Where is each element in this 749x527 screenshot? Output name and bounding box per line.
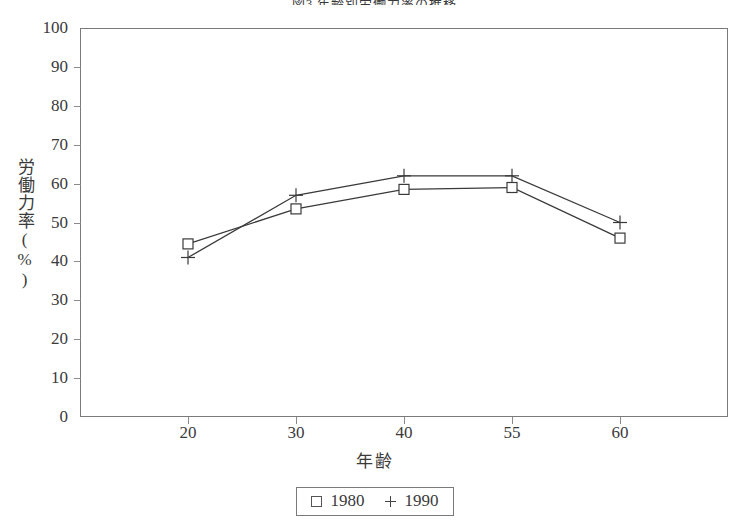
y-tick-label: 10 bbox=[28, 369, 68, 386]
legend-label: 1980 bbox=[331, 491, 365, 511]
chart-figure: 図3 年齢別労働力率の推移 0102030405060708090100 労働力… bbox=[0, 0, 749, 527]
y-tick-mark bbox=[74, 145, 81, 146]
y-tick-mark bbox=[74, 184, 81, 185]
y-tick-label: 80 bbox=[28, 97, 68, 114]
chart-legend: 19801990 bbox=[296, 487, 454, 516]
y-axis: 0102030405060708090100 bbox=[0, 0, 749, 527]
y-axis-title: 労働力率(%) bbox=[6, 158, 34, 290]
y-tick-mark bbox=[74, 261, 81, 262]
y-tick-mark bbox=[74, 223, 81, 224]
legend-label: 1990 bbox=[405, 491, 439, 511]
y-tick-label: 90 bbox=[28, 58, 68, 75]
y-tick-label: 30 bbox=[28, 291, 68, 308]
y-tick-mark bbox=[74, 300, 81, 301]
legend-entry-1990: 1990 bbox=[385, 491, 439, 511]
y-tick-label: 60 bbox=[28, 175, 68, 192]
x-axis-title: 年齢 bbox=[0, 452, 749, 472]
x-tick-label: 20 bbox=[168, 423, 208, 442]
y-tick-mark bbox=[74, 67, 81, 68]
x-tick-label: 55 bbox=[492, 423, 532, 442]
y-tick-label: 40 bbox=[28, 252, 68, 269]
y-tick-label: 100 bbox=[28, 19, 68, 36]
x-tick-label: 30 bbox=[276, 423, 316, 442]
y-tick-label: 70 bbox=[28, 136, 68, 153]
plus-marker-icon bbox=[385, 496, 396, 507]
x-tick-label: 40 bbox=[384, 423, 424, 442]
y-tick-mark bbox=[74, 106, 81, 107]
x-tick-label: 60 bbox=[600, 423, 640, 442]
square-marker-icon bbox=[311, 496, 322, 507]
legend-entry-1980: 1980 bbox=[311, 491, 365, 511]
y-tick-label: 50 bbox=[28, 214, 68, 231]
y-tick-label: 0 bbox=[28, 408, 68, 425]
y-tick-mark bbox=[74, 378, 81, 379]
y-tick-label: 20 bbox=[28, 330, 68, 347]
y-tick-mark bbox=[74, 339, 81, 340]
